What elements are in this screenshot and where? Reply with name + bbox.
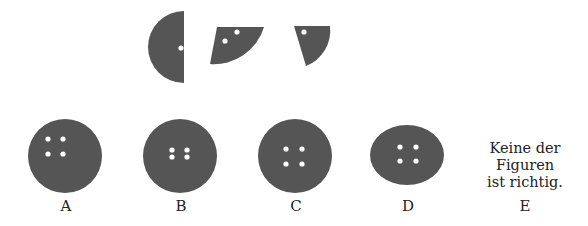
option-a[interactable]: A [28, 119, 102, 215]
option-e-line-1: Keine der [490, 140, 561, 156]
option-label: A [60, 197, 72, 215]
hole-icon [222, 38, 227, 43]
option-e[interactable]: Keine der Figuren ist richtig. E [487, 140, 563, 215]
option-label: E [520, 197, 531, 215]
option-label: B [175, 197, 186, 215]
option-c[interactable]: C [258, 119, 332, 215]
puzzle-canvas: A B C D Keine der Figuren ist richtig. E [0, 0, 588, 226]
hole-icon [178, 45, 183, 50]
option-b[interactable]: B [143, 119, 217, 215]
option-d[interactable]: D [370, 125, 444, 215]
option-label: C [290, 197, 301, 215]
question-pieces [148, 11, 330, 83]
option-e-line-3: ist richtig. [487, 174, 563, 190]
hole-icon [234, 29, 239, 34]
hole-icon [301, 29, 306, 34]
piece-quarter-sector [210, 27, 264, 64]
option-label: D [402, 197, 414, 215]
piece-narrow-sector [294, 26, 330, 66]
piece-half-circle [148, 11, 184, 83]
option-e-line-2: Figuren [496, 157, 554, 173]
